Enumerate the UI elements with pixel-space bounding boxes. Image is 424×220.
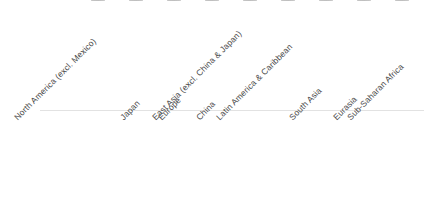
bar-chart: $179 $140 $127 $124 $64 $31	[0, 0, 424, 220]
bar[interactable]	[243, 0, 257, 1]
bar[interactable]	[281, 0, 295, 1]
bar[interactable]	[129, 0, 143, 1]
bar[interactable]	[91, 0, 105, 1]
bar[interactable]	[319, 0, 333, 1]
x-axis-tick-labels: North America (excl. Mexico) Japan Europ…	[0, 111, 424, 220]
bar[interactable]	[395, 0, 409, 1]
bar[interactable]	[357, 0, 371, 1]
bar[interactable]	[167, 0, 181, 1]
bar[interactable]	[205, 0, 219, 1]
